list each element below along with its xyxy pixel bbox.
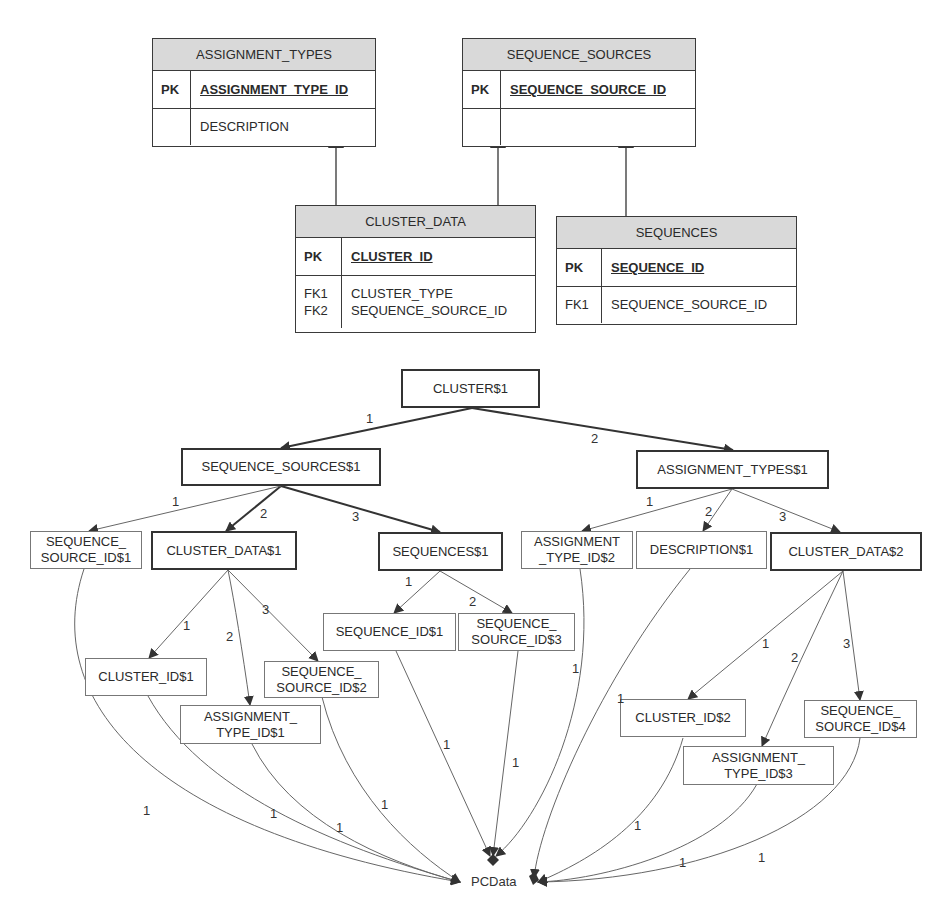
node-sequence-source-id1[interactable]: SEQUENCE_SOURCE_ID$1 xyxy=(30,531,142,569)
edge-label: 2 xyxy=(260,506,267,521)
edge-label: 3 xyxy=(843,636,850,651)
node-description1[interactable]: DESCRIPTION$1 xyxy=(636,531,767,569)
edge-label: 1 xyxy=(646,494,653,509)
fk-label: FK1 xyxy=(557,287,602,323)
edge-label: 3 xyxy=(352,509,359,524)
pk-label: PK xyxy=(153,71,191,108)
table-header: SEQUENCES xyxy=(557,217,796,249)
pk-label: PK xyxy=(463,71,501,108)
node-sequence-source-id4[interactable]: SEQUENCE_SOURCE_ID$4 xyxy=(804,700,917,738)
node-assignment-type-id3[interactable]: ASSIGNMENT_TYPE_ID$3 xyxy=(683,746,834,785)
edge-label: 1 xyxy=(336,820,343,835)
fk-labels: FK1 FK2 xyxy=(296,276,342,328)
edge-label: 1 xyxy=(758,850,765,865)
edge-label: 1 xyxy=(617,691,624,706)
pcdata-diamond-top xyxy=(487,854,499,866)
pk-field: SEQUENCE_ID xyxy=(602,249,796,286)
node-cluster-data2[interactable]: CLUSTER_DATA$2 xyxy=(770,532,922,571)
attr-key xyxy=(463,109,501,145)
edge-label: 2 xyxy=(591,431,598,446)
edge-label: 3 xyxy=(262,602,269,617)
edge-label: 2 xyxy=(705,504,712,519)
node-pcdata[interactable]: PCData xyxy=(471,874,517,889)
er-table-cluster-data[interactable]: CLUSTER_DATA PK CLUSTER_ID FK1 FK2 CLUST… xyxy=(295,205,536,333)
attr-field: DESCRIPTION xyxy=(191,109,375,145)
node-cluster-data1[interactable]: CLUSTER_DATA$1 xyxy=(151,531,297,570)
pk-field: SEQUENCE_SOURCE_ID xyxy=(501,71,695,108)
edge-label: 1 xyxy=(679,855,686,870)
edge-label: 1 xyxy=(762,636,769,651)
pk-field: CLUSTER_ID xyxy=(342,238,535,275)
node-cluster-id2[interactable]: CLUSTER_ID$2 xyxy=(620,699,746,737)
edge-label: 1 xyxy=(172,494,179,509)
attr-field xyxy=(501,109,695,145)
node-sequences1[interactable]: SEQUENCES$1 xyxy=(378,532,503,571)
node-sequence-id1[interactable]: SEQUENCE_ID$1 xyxy=(323,613,456,651)
pk-label: PK xyxy=(296,238,342,275)
edge-label: 3 xyxy=(779,509,786,524)
edge-label: 1 xyxy=(572,661,579,676)
edge-label: 1 xyxy=(405,574,412,589)
edge-label: 1 xyxy=(512,755,519,770)
table-header: SEQUENCE_SOURCES xyxy=(463,39,695,71)
node-sequence-sources1[interactable]: SEQUENCE_SOURCES$1 xyxy=(181,448,381,486)
edge-label: 2 xyxy=(791,650,798,665)
edge-label: 2 xyxy=(226,629,233,644)
attr-key xyxy=(153,109,191,145)
fk-field: SEQUENCE_SOURCE_ID xyxy=(602,287,796,323)
edge-label: 1 xyxy=(634,818,641,833)
node-assignment-types1[interactable]: ASSIGNMENT_TYPES$1 xyxy=(636,450,829,489)
er-table-sequences[interactable]: SEQUENCES PK SEQUENCE_ID FK1 SEQUENCE_SO… xyxy=(556,216,797,325)
edge-label: 1 xyxy=(381,797,388,812)
table-header: CLUSTER_DATA xyxy=(296,206,535,238)
node-assignment-type-id2[interactable]: ASSIGNMENT_TYPE_ID$2 xyxy=(521,531,633,569)
edge-label: 2 xyxy=(469,594,476,609)
node-sequence-source-id2[interactable]: SEQUENCE_SOURCE_ID$2 xyxy=(264,661,379,698)
edge-label: 1 xyxy=(270,806,277,821)
edge-label: 1 xyxy=(143,803,150,818)
node-cluster1[interactable]: CLUSTER$1 xyxy=(401,369,540,408)
er-table-assignment-types[interactable]: ASSIGNMENT_TYPES PK ASSIGNMENT_TYPE_ID D… xyxy=(152,38,376,147)
pcdata-diamond-right xyxy=(529,872,539,885)
fk-fields: CLUSTER_TYPE SEQUENCE_SOURCE_ID xyxy=(342,276,535,328)
edge-label: 1 xyxy=(366,411,373,426)
pk-field: ASSIGNMENT_TYPE_ID xyxy=(191,71,375,108)
edge-label: 1 xyxy=(443,737,450,752)
er-table-sequence-sources[interactable]: SEQUENCE_SOURCES PK SEQUENCE_SOURCE_ID xyxy=(462,38,696,147)
node-sequence-source-id3[interactable]: SEQUENCE_SOURCE_ID$3 xyxy=(458,613,575,651)
node-cluster-id1[interactable]: CLUSTER_ID$1 xyxy=(85,658,207,696)
pk-label: PK xyxy=(557,249,602,286)
edge-label: 1 xyxy=(183,618,190,633)
table-header: ASSIGNMENT_TYPES xyxy=(153,39,375,71)
node-assignment-type-id1[interactable]: ASSIGNMENT_TYPE_ID$1 xyxy=(180,705,321,744)
